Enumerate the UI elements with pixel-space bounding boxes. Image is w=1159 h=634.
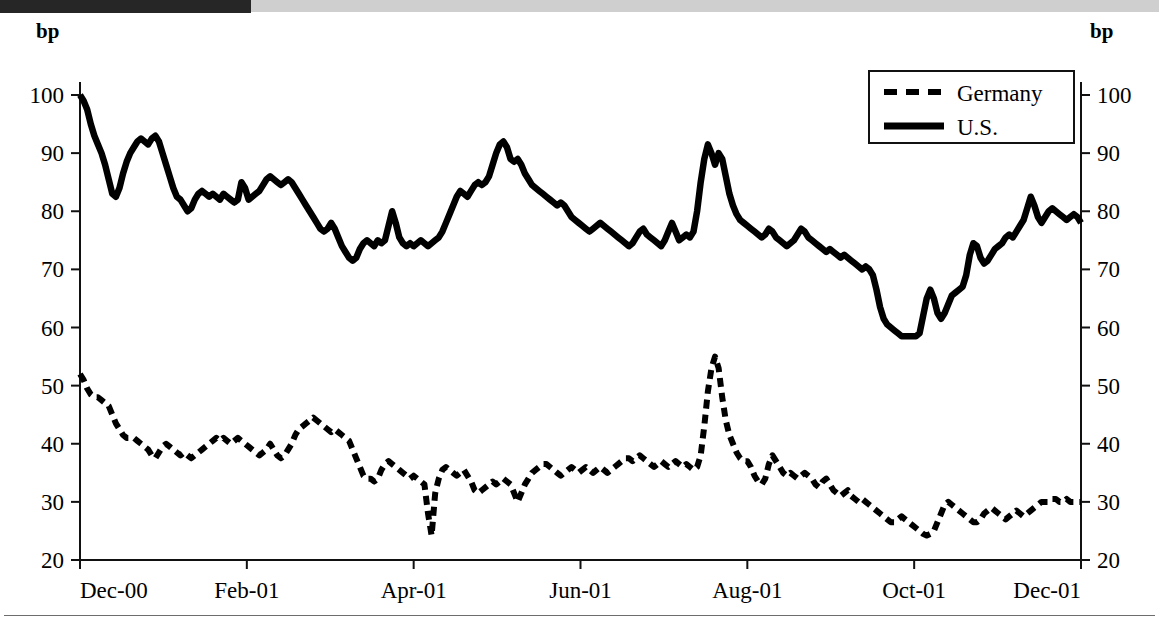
legend-label-germany: Germany — [957, 81, 1043, 106]
y-axis-left-ticks: 2030405060708090100 — [30, 83, 81, 573]
title-bar-gray-band — [251, 0, 1159, 12]
y-tick-label-left: 50 — [41, 374, 64, 399]
y-tick-label-right: 30 — [1097, 490, 1120, 515]
y-tick-label-left: 70 — [41, 257, 64, 282]
x-tick-label: Jun-01 — [549, 578, 612, 603]
title-bar-dark-block — [0, 0, 251, 13]
chart-legend: Germany U.S. — [869, 71, 1074, 143]
y-axis-right-ticks: 2030405060708090100 — [1081, 83, 1132, 573]
y-tick-label-left: 80 — [41, 199, 64, 224]
x-tick-label: Feb-01 — [214, 578, 279, 603]
y-tick-label-right: 60 — [1097, 316, 1120, 341]
line-chart: 2030405060708090100 2030405060708090100 … — [0, 13, 1159, 617]
y-tick-label-right: 90 — [1097, 141, 1120, 166]
y-tick-label-right: 50 — [1097, 374, 1120, 399]
x-tick-label: Dec-01 — [1013, 578, 1081, 603]
y-tick-label-left: 90 — [41, 141, 64, 166]
y-tick-label-left: 20 — [41, 548, 64, 573]
axes-frame — [80, 82, 1081, 560]
y-tick-label-right: 100 — [1097, 83, 1132, 108]
y-tick-label-right: 80 — [1097, 199, 1120, 224]
y-axis-left-unit-label: bp — [36, 19, 59, 43]
data-series-group — [80, 95, 1081, 536]
x-axis-ticks: Dec-00Feb-01Apr-01Jun-01Aug-01Oct-01Dec-… — [80, 560, 1081, 603]
y-tick-label-left: 40 — [41, 432, 64, 457]
figure-bottom-rule — [4, 615, 1155, 616]
y-tick-label-right: 40 — [1097, 432, 1120, 457]
x-tick-label: Apr-01 — [381, 578, 447, 603]
cropped-title-bar — [0, 0, 1159, 13]
y-tick-label-left: 60 — [41, 316, 64, 341]
series-line-germany — [80, 357, 1081, 536]
legend-label-us: U.S. — [957, 115, 998, 140]
y-axis-right-unit-label: bp — [1090, 19, 1113, 43]
y-tick-label-right: 20 — [1097, 548, 1120, 573]
x-tick-label: Aug-01 — [712, 578, 782, 603]
chart-figure: 2030405060708090100 2030405060708090100 … — [0, 13, 1159, 617]
y-tick-label-left: 100 — [30, 83, 65, 108]
x-tick-label: Dec-00 — [80, 578, 148, 603]
x-tick-label: Oct-01 — [882, 578, 946, 603]
y-tick-label-right: 70 — [1097, 257, 1120, 282]
y-tick-label-left: 30 — [41, 490, 64, 515]
